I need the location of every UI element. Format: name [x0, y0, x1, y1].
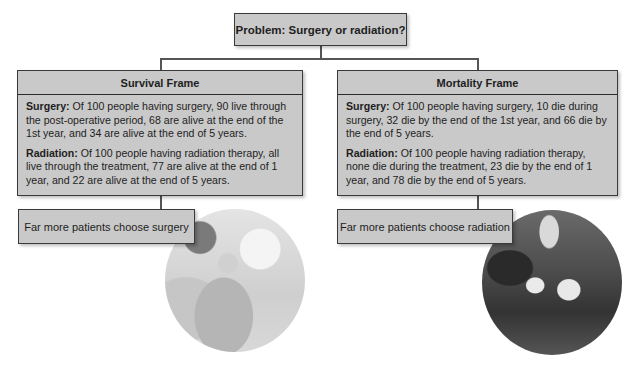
mortality-radiation-text: Radiation: Of 100 people having radiatio…: [346, 147, 609, 188]
mortality-surgery-text: Surgery: Of 100 people having surgery, 1…: [346, 100, 609, 141]
radiation-label: Radiation:: [26, 147, 78, 159]
problem-label: Problem: Surgery or radiation?: [236, 24, 406, 36]
connector-right-outcome: [477, 196, 479, 209]
mortality-frame-box: Mortality Frame Surgery: Of 100 people h…: [337, 70, 618, 196]
survival-outcome-label: Far more patients choose surgery: [24, 221, 188, 233]
radiation-label: Radiation:: [346, 147, 398, 159]
surgery-label: Surgery:: [26, 100, 70, 112]
problem-box: Problem: Surgery or radiation?: [234, 13, 407, 46]
survival-radiation-text: Radiation: Of 100 people having radiatio…: [26, 147, 294, 188]
mortality-outcome-box: Far more patients choose radiation: [337, 209, 513, 244]
connector-left-down: [160, 58, 162, 70]
connector-left-outcome: [160, 196, 162, 209]
survival-surgery-text: Surgery: Of 100 people having surgery, 9…: [26, 100, 294, 141]
survival-outcome-box: Far more patients choose surgery: [18, 209, 195, 244]
connector-right-down: [477, 58, 479, 70]
survival-frame-title: Survival Frame: [18, 71, 302, 95]
mortality-outcome-label: Far more patients choose radiation: [340, 221, 510, 233]
mortality-frame-title: Mortality Frame: [338, 71, 617, 95]
surgery-label: Surgery:: [346, 100, 390, 112]
connector-horizontal: [160, 58, 478, 60]
survival-frame-box: Survival Frame Surgery: Of 100 people ha…: [17, 70, 303, 196]
